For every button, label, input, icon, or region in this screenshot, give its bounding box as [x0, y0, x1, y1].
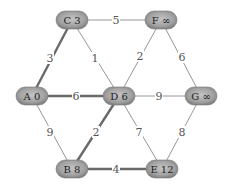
edge-weight-label: 6: [73, 90, 80, 103]
node-label: D 6: [110, 91, 128, 102]
edge-weight-label: 5: [113, 14, 120, 27]
edge-weight-label: 2: [137, 50, 144, 63]
edge-weight-label: 7: [136, 126, 143, 139]
node-label: C 3: [63, 15, 80, 26]
node-label: F ∞: [152, 15, 170, 26]
node-d: D 6: [103, 87, 135, 105]
edge-weight-label: 6: [179, 51, 186, 64]
nodes-layer: C 3F ∞A 0D 6G ∞B 8E 12: [16, 11, 217, 178]
node-g: G ∞: [185, 87, 217, 105]
node-f: F ∞: [145, 11, 177, 29]
graph-canvas: 531266992784 C 3F ∞A 0D 6G ∞B 8E 12: [0, 0, 227, 190]
node-b: B 8: [56, 160, 88, 178]
node-label: G ∞: [191, 91, 211, 102]
edge-weight-label: 4: [113, 163, 120, 176]
edge-weight-label: 3: [47, 52, 54, 65]
edge-weight-label: 2: [93, 126, 100, 139]
node-a: A 0: [16, 87, 48, 105]
node-e: E 12: [146, 160, 178, 178]
node-label: B 8: [64, 164, 81, 175]
node-c: C 3: [56, 11, 88, 29]
node-label: A 0: [23, 91, 41, 102]
edge-weight-label: 8: [179, 126, 186, 139]
edge-weight-label: 1: [92, 52, 99, 65]
edge-weight-label: 9: [47, 126, 54, 139]
node-label: E 12: [150, 164, 173, 175]
edge-weight-label: 9: [156, 90, 163, 103]
